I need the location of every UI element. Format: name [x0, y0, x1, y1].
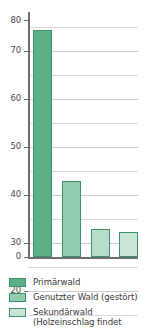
chart-legend: Primärwald Genutzter Wald (gestört) Seku… [0, 272, 143, 330]
legend-item-primaerwald[interactable]: Primärwald [9, 277, 80, 287]
y-tick-label-60: 60 [2, 94, 21, 103]
legend-label-sekundaerwald: Sekundärwald (Holzeinschlag findet [33, 307, 121, 327]
y-tick-label-70: 70 [2, 46, 21, 55]
y-axis-tick-labels: 80 70 60 50 40 30 20 10 0 [0, 0, 143, 272]
y-tick-label-40: 40 [2, 190, 21, 199]
legend-item-genutzter-wald[interactable]: Genutzter Wald (gestört) [9, 292, 138, 302]
legend-swatch-genutzter-wald [9, 293, 26, 302]
y-tick-label-50: 50 [2, 142, 21, 151]
y-tick-label-0: 0 [2, 252, 21, 261]
legend-swatch-sekundaerwald [9, 308, 26, 317]
y-tick-label-30: 30 [2, 238, 21, 247]
y-tick-label-80: 80 [2, 16, 21, 25]
bar-chart: 80 70 60 50 40 30 20 10 0 Primärwald Gen… [0, 0, 143, 330]
plot-area: 80 70 60 50 40 30 20 10 0 [0, 0, 143, 272]
legend-swatch-primaerwald [9, 278, 26, 287]
legend-label-primaerwald: Primärwald [33, 277, 80, 287]
legend-label-genutzter-wald: Genutzter Wald (gestört) [33, 292, 138, 302]
legend-item-sekundaerwald[interactable]: Sekundärwald (Holzeinschlag findet [9, 307, 121, 327]
